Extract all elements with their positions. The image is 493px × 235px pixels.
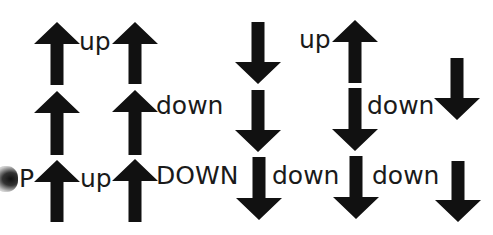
- word-label: down: [372, 163, 439, 188]
- word-label: P: [19, 166, 34, 191]
- arrow-up-icon: [112, 90, 158, 155]
- word-label: up: [80, 166, 112, 191]
- word-label: down: [367, 93, 434, 118]
- arrow-up-icon: [34, 160, 80, 222]
- arrow-up-icon: [112, 22, 158, 84]
- arrow-down-icon: [235, 90, 281, 152]
- arrow-down-icon: [435, 161, 481, 222]
- word-label: up: [79, 29, 111, 54]
- arrow-down-icon: [235, 22, 281, 84]
- arrow-up-icon: [332, 20, 378, 83]
- arrow-down-icon: [434, 58, 480, 120]
- word-label: DOWN: [156, 163, 238, 188]
- word-label: down: [272, 163, 339, 188]
- arrow-up-icon: [34, 91, 80, 155]
- word-label: down: [156, 93, 223, 118]
- arrow-up-icon: [34, 22, 80, 85]
- arrow-word-grid: upupdowndownPupDOWNdowndown: [0, 0, 493, 235]
- word-label: up: [299, 27, 331, 52]
- arrow-up-icon: [112, 159, 158, 222]
